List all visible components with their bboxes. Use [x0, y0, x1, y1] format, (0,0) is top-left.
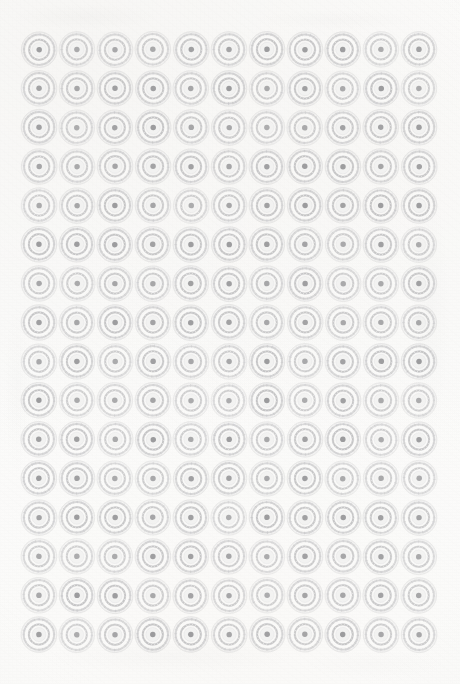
- rosette-motif: [362, 537, 400, 576]
- rosette-motif: [134, 225, 172, 264]
- rosette-motif-cell: [400, 225, 438, 264]
- rosette-motif: [286, 186, 324, 225]
- rosette-motif-cell: [248, 30, 286, 69]
- rosette-motif-cell: [172, 342, 210, 381]
- rosette-motif-cell: [20, 225, 58, 264]
- rosette-motif: [210, 537, 248, 576]
- rosette-motif-cell: [134, 225, 172, 264]
- rosette-motif: [210, 147, 248, 186]
- rosette-motif-cell: [324, 303, 362, 342]
- rosette-motif-cell: [20, 186, 58, 225]
- rosette-motif: [248, 264, 286, 303]
- rosette-motif: [134, 30, 172, 69]
- rosette-motif-cell: [400, 498, 438, 537]
- rosette-motif-cell: [286, 225, 324, 264]
- scan-smudge: [300, 650, 450, 678]
- rosette-motif-cell: [400, 186, 438, 225]
- rosette-motif: [20, 147, 58, 186]
- rosette-motif: [248, 303, 286, 342]
- rosette-motif: [172, 69, 210, 108]
- rosette-motif: [172, 537, 210, 576]
- rosette-motif-cell: [172, 615, 210, 654]
- rosette-motif-cell: [58, 147, 96, 186]
- rosette-motif-cell: [400, 420, 438, 459]
- rosette-motif-cell: [20, 381, 58, 420]
- rosette-motif-cell: [324, 381, 362, 420]
- rosette-motif: [96, 576, 134, 615]
- rosette-motif: [134, 459, 172, 498]
- rosette-motif-cell: [286, 303, 324, 342]
- rosette-motif-cell: [400, 108, 438, 147]
- rosette-motif-cell: [172, 459, 210, 498]
- rosette-motif: [400, 30, 438, 69]
- rosette-motif: [362, 381, 400, 420]
- rosette-motif: [210, 615, 248, 654]
- rosette-motif: [324, 186, 362, 225]
- rosette-motif: [20, 420, 58, 459]
- rosette-motif: [324, 537, 362, 576]
- rosette-motif: [172, 264, 210, 303]
- rosette-motif-cell: [362, 108, 400, 147]
- rosette-motif-cell: [58, 537, 96, 576]
- rosette-motif: [362, 30, 400, 69]
- rosette-motif: [324, 69, 362, 108]
- rosette-motif: [362, 147, 400, 186]
- rosette-motif-cell: [286, 420, 324, 459]
- rosette-motif: [286, 108, 324, 147]
- rosette-motif-cell: [248, 420, 286, 459]
- rosette-motif-cell: [324, 498, 362, 537]
- rosette-motif-cell: [58, 615, 96, 654]
- rosette-motif: [248, 69, 286, 108]
- rosette-motif-cell: [286, 30, 324, 69]
- rosette-motif: [58, 225, 96, 264]
- rosette-motif: [286, 225, 324, 264]
- rosette-motif-cell: [134, 537, 172, 576]
- rosette-motif: [324, 615, 362, 654]
- rosette-motif-cell: [400, 69, 438, 108]
- rosette-motif-cell: [134, 147, 172, 186]
- rosette-motif-cell: [58, 342, 96, 381]
- rosette-motif-cell: [96, 342, 134, 381]
- rosette-motif: [286, 459, 324, 498]
- rosette-motif-cell: [324, 186, 362, 225]
- rosette-motif-cell: [324, 69, 362, 108]
- rosette-motif-cell: [96, 537, 134, 576]
- rosette-motif: [248, 615, 286, 654]
- rosette-motif: [20, 186, 58, 225]
- rosette-motif-cell: [134, 69, 172, 108]
- rosette-motif-cell: [248, 108, 286, 147]
- rosette-motif-cell: [134, 498, 172, 537]
- rosette-motif: [58, 186, 96, 225]
- rosette-motif-cell: [20, 303, 58, 342]
- rosette-motif-cell: [286, 147, 324, 186]
- rosette-motif-cell: [324, 459, 362, 498]
- rosette-motif-cell: [58, 420, 96, 459]
- rosette-motif-cell: [210, 30, 248, 69]
- rosette-motif: [286, 576, 324, 615]
- rosette-motif: [172, 30, 210, 69]
- rosette-motif-cell: [96, 615, 134, 654]
- rosette-motif-cell: [58, 381, 96, 420]
- rosette-motif-cell: [362, 459, 400, 498]
- rosette-motif: [20, 108, 58, 147]
- rosette-motif-cell: [134, 459, 172, 498]
- rosette-motif-cell: [248, 381, 286, 420]
- rosette-motif-cell: [324, 30, 362, 69]
- rosette-motif-cell: [210, 303, 248, 342]
- rosette-motif: [96, 108, 134, 147]
- rosette-motif-cell: [172, 498, 210, 537]
- rosette-motif-cell: [210, 615, 248, 654]
- rosette-motif-cell: [400, 342, 438, 381]
- rosette-motif-grid: [20, 30, 438, 654]
- rosette-motif: [20, 381, 58, 420]
- rosette-motif: [248, 186, 286, 225]
- rosette-motif: [210, 30, 248, 69]
- rosette-motif: [286, 303, 324, 342]
- rosette-motif-cell: [134, 420, 172, 459]
- rosette-motif-cell: [286, 264, 324, 303]
- rosette-motif: [172, 459, 210, 498]
- rosette-motif-cell: [96, 498, 134, 537]
- rosette-motif: [134, 108, 172, 147]
- rosette-motif-cell: [20, 69, 58, 108]
- rosette-motif: [58, 30, 96, 69]
